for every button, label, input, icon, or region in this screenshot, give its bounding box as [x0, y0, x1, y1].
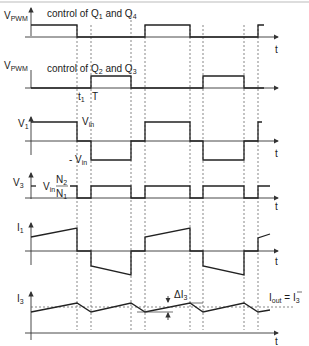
timing-guides [77, 12, 258, 330]
iout-eq-label: Iout = I3 [269, 292, 300, 304]
vpwm2-caption: control of Q2 and Q3 [47, 63, 137, 75]
vpwm2-ylabel: VPWM [4, 60, 28, 72]
delta-i3-label: ΔI3 [174, 289, 187, 301]
T-label: T [92, 91, 98, 102]
t1-label: t1 [78, 91, 85, 103]
panel-v3: V3 Vin N2 N1 t [13, 173, 278, 212]
v1-t-label: t [275, 148, 278, 159]
neg-vin-label: - Vin [69, 154, 87, 166]
panel-vpwm-q2-q3: VPWM control of Q2 and Q3 t1 T [4, 60, 278, 103]
v1-ylabel: V1 [18, 118, 29, 130]
timing-diagram: VPWM control of Q1 and Q4 t VPWM control… [0, 0, 309, 346]
i3-t-label: t [275, 336, 278, 346]
v3-t-label: t [275, 201, 278, 212]
panel-i3: I3 ΔI3 Iout = I3 t [17, 289, 302, 346]
panel-vpwm-q1-q4: VPWM control of Q1 and Q4 t [4, 8, 278, 55]
v3-vin: Vin [43, 181, 55, 193]
i1-t-label: t [275, 256, 278, 267]
vpwm1-ylabel: VPWM [4, 10, 28, 22]
vpwm1-t-label: t [275, 44, 278, 55]
v3-n1: N1 [56, 188, 67, 200]
panel-i1: I1 t [17, 222, 278, 275]
i1-ylabel: I1 [17, 222, 24, 234]
v3-ylabel: V3 [13, 177, 24, 189]
i3-ylabel: I3 [17, 293, 24, 305]
vin-label: Vin [82, 116, 94, 128]
v3-n2: N2 [56, 174, 67, 186]
vpwm1-caption: control of Q1 and Q4 [47, 8, 137, 20]
panel-v1: V1 Vin - Vin t [18, 116, 278, 166]
